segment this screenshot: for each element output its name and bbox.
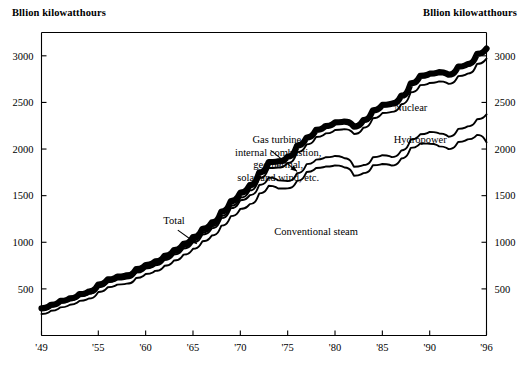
y-tick-label-right: 1000: [495, 237, 516, 248]
annotation-gas-turbine: Gas turbine,internal combustion,geotherm…: [235, 134, 321, 183]
x-tick-label: '85: [376, 342, 388, 353]
annotation-label: geothermal,: [253, 159, 303, 170]
annotation-label: Total: [163, 215, 185, 226]
annotation-label: Nuclear: [394, 102, 428, 113]
y-tick-label-right: 500: [495, 284, 511, 295]
chart-annotations-group: Gas turbine,internal combustion,geotherm…: [163, 102, 447, 244]
annotation-label: Conventional steam: [274, 226, 358, 237]
y-tick-label-left: 1000: [13, 237, 34, 248]
annotation-label: solar and wind, etc.: [237, 172, 319, 183]
chart-ticks-group: 5001000150020002500300050010001500200025…: [13, 51, 516, 353]
annotation-nuclear: Nuclear: [394, 102, 428, 113]
y-tick-label-left: 3000: [13, 51, 34, 62]
x-tick-label: '60: [139, 342, 151, 353]
x-tick-label: '55: [92, 342, 104, 353]
y-tick-label-right: 2500: [495, 97, 516, 108]
x-tick-label: '65: [187, 342, 199, 353]
y-tick-label-right: 2000: [495, 144, 516, 155]
y-tick-label-right: 1500: [495, 190, 516, 201]
x-tick-label: '70: [234, 342, 246, 353]
y-tick-label-left: 2000: [13, 144, 34, 155]
chart-plot-area: 5001000150020002500300050010001500200025…: [0, 0, 527, 370]
chart-figure: Bllion kilowatthours Bllion kilowatthour…: [0, 0, 527, 370]
y-axis-unit-label-left: Bllion kilowatthours: [12, 7, 106, 18]
annotation-label: Gas turbine,: [253, 134, 304, 145]
y-axis-unit-label-right: Bllion kilowatthours: [423, 7, 517, 18]
annotation-conventional-steam: Conventional steam: [274, 226, 358, 237]
x-tick-label: '49: [35, 342, 47, 353]
annotation-label: Hydropower: [394, 134, 448, 145]
y-tick-label-left: 500: [18, 284, 34, 295]
y-tick-label-left: 1500: [13, 190, 34, 201]
y-tick-label-left: 2500: [13, 97, 34, 108]
annotation-hydropower: Hydropower: [394, 134, 448, 145]
x-tick-label: '90: [423, 342, 435, 353]
x-tick-label: '96: [480, 342, 492, 353]
x-tick-label: '75: [281, 342, 293, 353]
annotation-total: Total: [163, 215, 185, 226]
y-tick-label-right: 3000: [495, 51, 516, 62]
x-tick-label: '80: [329, 342, 341, 353]
